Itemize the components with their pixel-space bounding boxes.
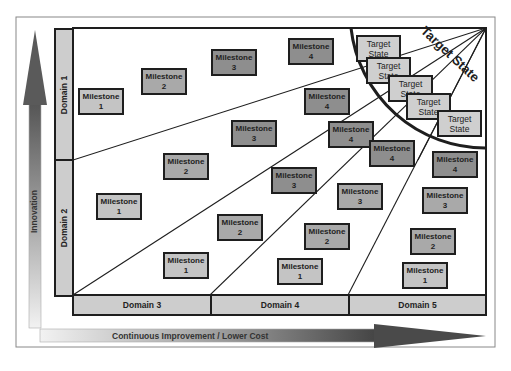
milestone-fan4-3: Milestone3: [337, 183, 383, 210]
domain-1-label: Domain 1: [59, 75, 69, 113]
milestone-d1-3: Milestone3: [211, 49, 257, 76]
milestone-d5-3: Milestone3: [422, 187, 468, 214]
roadmap-diagram: Target State Domain 1 Domain 2 Domain 3 …: [0, 0, 511, 371]
domain-2-band: Domain 2: [54, 159, 74, 297]
ci-axis-label: Continuous Improvement / Lower Cost: [112, 331, 268, 341]
milestone-d5-1: Milestone1: [402, 262, 448, 289]
milestone-d2-1: Milestone1: [96, 193, 142, 220]
milestone-fan3-3: Milestone3: [271, 167, 317, 194]
milestone-fan2-3: Milestone3: [231, 120, 277, 147]
milestone-fan4-4: Milestone4: [369, 140, 415, 167]
innovation-arrow-icon: [23, 30, 47, 328]
innovation-axis-label: Innovation: [29, 193, 39, 233]
target-state-5: TargetState: [437, 110, 482, 137]
domain-4-label: Domain 4: [261, 300, 299, 310]
milestone-d3-1: Milestone1: [163, 252, 209, 279]
milestone-d1-4: Milestone4: [288, 38, 334, 65]
milestone-fan2-4: Milestone4: [304, 88, 350, 115]
domain-2-label: Domain 2: [59, 209, 69, 247]
milestone-d4-1: Milestone1: [277, 258, 323, 285]
domain-4-band: Domain 4: [210, 294, 350, 316]
domain-1-band: Domain 1: [54, 28, 74, 161]
milestone-fan4-2: Milestone2: [304, 223, 350, 250]
milestone-d5-4: Milestone4: [432, 151, 478, 178]
milestone-d1-2: Milestone2: [141, 68, 187, 95]
milestone-fan3-2: Milestone2: [217, 214, 263, 241]
milestone-d1-1: Milestone1: [78, 88, 124, 115]
domain-5-band: Domain 5: [348, 294, 487, 316]
milestone-fan3-4: Milestone4: [328, 121, 374, 148]
domain-3-label: Domain 3: [123, 300, 161, 310]
milestone-fan2-2: Milestone2: [163, 153, 209, 180]
milestone-d5-2: Milestone2: [410, 228, 456, 255]
domain-3-band: Domain 3: [72, 294, 212, 316]
domain-5-label: Domain 5: [398, 300, 436, 310]
